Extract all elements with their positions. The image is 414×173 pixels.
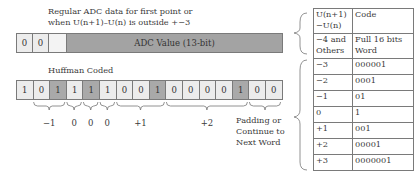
brace-icon <box>100 102 115 110</box>
table-header-row: U(n+1) −U(n) Code <box>314 9 414 34</box>
padding-label: Padding or Continue to Next Word <box>236 115 285 148</box>
code-cell: 001 <box>353 123 414 139</box>
code-cell: 0001 <box>353 75 414 91</box>
table-row: +200001 <box>314 139 414 155</box>
brace-icon <box>166 102 247 110</box>
escape-diff-line-2: Others <box>316 45 350 56</box>
brace-icon <box>117 102 165 110</box>
brace-icon <box>34 102 65 110</box>
escape-diff: −4 and Others <box>314 34 353 59</box>
escape-code-line-1: Full 16 bits <box>355 34 411 45</box>
table-row: −101 <box>314 91 414 107</box>
header-diff: U(n+1) −U(n) <box>314 9 353 34</box>
escape-brace-icon <box>294 13 307 54</box>
escape-code: Full 16 bits Word <box>353 34 414 59</box>
escape-code-line-2: Word <box>355 45 411 56</box>
brace-icon <box>249 102 280 110</box>
padding-line-1: Padding or <box>236 115 285 126</box>
diff-cell: −1 <box>314 91 353 107</box>
group-label: −1 <box>43 118 56 128</box>
code-cell: 01 <box>353 91 414 107</box>
diff-cell: −2 <box>314 75 353 91</box>
table-row: −3000001 <box>314 59 414 75</box>
diff-cell: +3 <box>314 155 353 171</box>
group-label: +1 <box>134 118 147 128</box>
table-row: 01 <box>314 107 414 123</box>
huffman-codes-brace-icon <box>294 60 307 170</box>
diff-cell: +1 <box>314 123 353 139</box>
group-label: 0 <box>71 118 76 128</box>
code-cell: 0000001 <box>353 155 414 171</box>
group-label: +2 <box>201 118 214 128</box>
code-cell: 1 <box>353 107 414 123</box>
table-row-escape: −4 and Others Full 16 bits Word <box>314 34 414 59</box>
code-table: U(n+1) −U(n) Code −4 and Others Full 16 … <box>313 8 414 171</box>
header-diff-line-2: −U(n) <box>316 20 350 31</box>
padding-line-3: Next Word <box>236 137 285 148</box>
diff-cell: −3 <box>314 59 353 75</box>
brace-icon <box>83 102 98 110</box>
header-diff-line-1: U(n+1) <box>316 9 350 20</box>
padding-line-2: Continue to <box>236 126 285 137</box>
header-code: Code <box>353 9 414 34</box>
table-row: +30000001 <box>314 155 414 171</box>
table-row: −20001 <box>314 75 414 91</box>
brace-icon <box>67 102 82 110</box>
code-cell: 00001 <box>353 139 414 155</box>
escape-diff-line-1: −4 and <box>316 34 350 45</box>
diff-cell: +2 <box>314 139 353 155</box>
group-label: 0 <box>88 118 93 128</box>
diff-cell: 0 <box>314 107 353 123</box>
code-cell: 000001 <box>353 59 414 75</box>
table-row: +1001 <box>314 123 414 139</box>
group-label: 0 <box>105 118 110 128</box>
